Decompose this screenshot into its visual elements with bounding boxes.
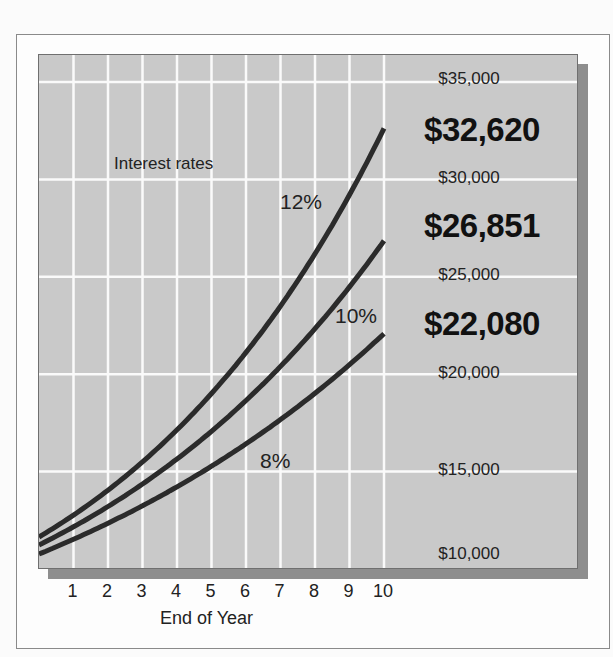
- y-tick-20000: $20,000: [409, 363, 529, 383]
- x-tick-10: 10: [368, 581, 398, 602]
- y-tick-30000: $30,000: [409, 168, 529, 188]
- annotation-interest-rates: Interest rates: [114, 154, 213, 174]
- x-tick-4: 4: [161, 581, 191, 602]
- end-value-10: $26,851: [397, 207, 567, 245]
- x-tick-9: 9: [334, 581, 364, 602]
- y-tick-25000: $25,000: [409, 265, 529, 285]
- x-tick-3: 3: [127, 581, 157, 602]
- x-tick-2: 2: [92, 581, 122, 602]
- x-tick-8: 8: [299, 581, 329, 602]
- x-axis-label: End of Year: [160, 608, 253, 629]
- x-tick-5: 5: [196, 581, 226, 602]
- curve-label-12: 12%: [280, 190, 322, 214]
- end-value-8: $22,080: [397, 305, 567, 343]
- curve-label-8: 8%: [260, 449, 290, 473]
- curve-label-10: 10%: [335, 304, 377, 328]
- y-tick-15000: $15,000: [409, 460, 529, 480]
- end-value-12: $32,620: [397, 111, 567, 149]
- y-tick-35000: $35,000: [409, 69, 529, 89]
- x-tick-6: 6: [230, 581, 260, 602]
- x-tick-1: 1: [58, 581, 88, 602]
- y-tick-10000: $10,000: [409, 544, 529, 564]
- x-tick-7: 7: [265, 581, 295, 602]
